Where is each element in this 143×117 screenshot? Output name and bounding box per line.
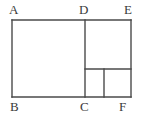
- vertex-label-D: D: [79, 3, 88, 16]
- vertex-label-C: C: [80, 100, 89, 113]
- vertex-label-E: E: [124, 3, 132, 16]
- segment-group: [12, 20, 131, 97]
- vertex-label-B: B: [10, 100, 19, 113]
- vertex-label-A: A: [9, 3, 18, 16]
- vertex-label-F: F: [119, 100, 126, 113]
- geometry-figure: A D E B C F: [0, 0, 143, 117]
